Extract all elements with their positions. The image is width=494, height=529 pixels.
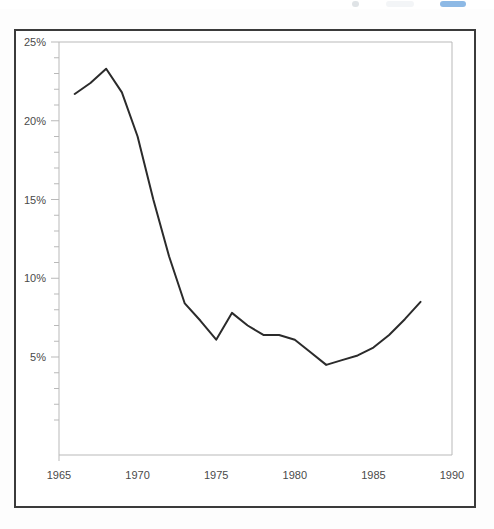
x-tick-label: 1990 [440,469,464,481]
y-tick-label: 15% [24,194,46,206]
x-tick-label: 1985 [361,469,385,481]
data-series-line [75,69,421,365]
cut-off-ui-strip [0,0,494,9]
ghost-label [386,1,414,7]
scanned-page: 5%10%15%20%25% 196519701975198019851990 [0,0,494,529]
x-axis: 196519701975198019851990 [47,455,464,481]
y-tick-label: 5% [30,351,46,363]
line-chart: 5%10%15%20%25% 196519701975198019851990 [16,31,478,510]
y-tick-label: 10% [24,272,46,284]
page-frame: 5%10%15%20%25% 196519701975198019851990 [14,29,476,508]
ghost-accent-badge [440,1,466,7]
ghost-icon [352,1,359,7]
x-tick-label: 1975 [204,469,228,481]
chart-svg: 5%10%15%20%25% 196519701975198019851990 [16,31,478,510]
x-tick-label: 1970 [125,469,149,481]
y-axis: 5%10%15%20%25% [24,36,452,455]
y-tick-label: 20% [24,115,46,127]
y-tick-label: 25% [24,36,46,48]
x-tick-label: 1965 [47,469,71,481]
x-tick-label: 1980 [283,469,307,481]
